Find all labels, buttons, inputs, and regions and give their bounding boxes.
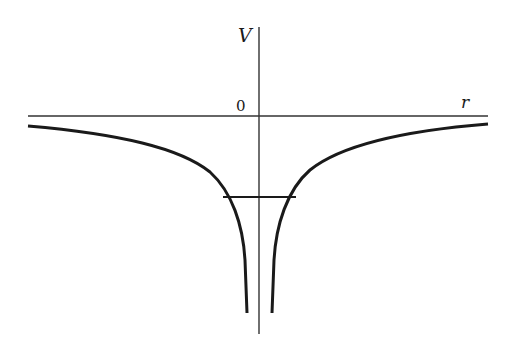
potential-diagram: V 0 r [0, 0, 508, 351]
potential-curve-left [28, 126, 247, 313]
origin-label: 0 [236, 97, 246, 115]
r-axis-label: r [461, 92, 470, 112]
v-axis-label: V [238, 24, 254, 46]
potential-curve-right [272, 124, 488, 313]
